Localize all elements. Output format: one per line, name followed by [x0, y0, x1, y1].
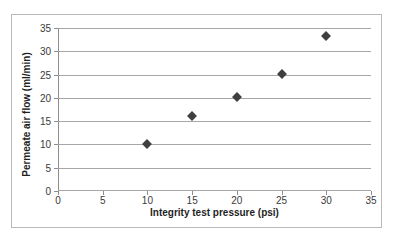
plot-area: 0510152025303505101520253035: [58, 28, 371, 191]
y-axis-line: [58, 28, 59, 191]
y-axis-title: Permeate air flow (ml/min): [21, 35, 32, 195]
data-point-marker: [321, 31, 331, 41]
x-axis-tick-label: 15: [187, 195, 198, 206]
y-axis-tick: [54, 28, 58, 29]
y-axis-tick-label: 35: [40, 23, 51, 34]
x-axis-tick-label: 25: [276, 195, 287, 206]
x-axis-tick-label: 30: [321, 195, 332, 206]
y-axis-tick-label: 20: [40, 92, 51, 103]
x-axis-tick-label: 0: [55, 195, 61, 206]
y-axis-tick-label: 30: [40, 46, 51, 57]
gridline-horizontal: [58, 75, 371, 76]
y-axis-tick-label: 0: [45, 186, 51, 197]
data-point-marker: [142, 139, 152, 149]
gridline-horizontal: [58, 28, 371, 29]
gridline-horizontal: [58, 121, 371, 122]
chart-container: Permeate air flow (ml/min) 0510152025303…: [11, 14, 382, 228]
y-axis-tick: [54, 168, 58, 169]
y-axis-tick-label: 25: [40, 69, 51, 80]
x-axis-title: Integrity test pressure (psi): [58, 207, 371, 218]
y-axis-tick: [54, 51, 58, 52]
data-point-marker: [187, 111, 197, 121]
data-point-marker: [277, 69, 287, 79]
y-axis-tick-label: 15: [40, 116, 51, 127]
gridline-horizontal: [58, 51, 371, 52]
y-axis-tick: [54, 75, 58, 76]
y-axis-tick: [54, 121, 58, 122]
gridline-horizontal: [58, 144, 371, 145]
x-axis-line: [58, 190, 371, 191]
gridline-horizontal: [58, 98, 371, 99]
x-axis-tick-label: 35: [365, 195, 376, 206]
y-axis-tick: [54, 144, 58, 145]
y-axis-tick: [54, 98, 58, 99]
x-axis-tick-label: 10: [142, 195, 153, 206]
x-axis-tick-label: 5: [100, 195, 106, 206]
y-axis-tick-label: 5: [45, 162, 51, 173]
y-axis-tick-label: 10: [40, 139, 51, 150]
data-point-marker: [232, 92, 242, 102]
x-axis-tick-label: 20: [231, 195, 242, 206]
gridline-horizontal: [58, 168, 371, 169]
